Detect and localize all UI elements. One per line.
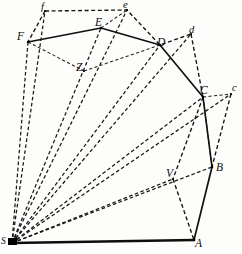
ray-S-F bbox=[12, 42, 28, 243]
ray-S-e bbox=[12, 10, 127, 243]
edge-c-B bbox=[212, 94, 231, 167]
label-e: e bbox=[123, 0, 128, 11]
dashed-edge-group bbox=[28, 10, 231, 240]
station-ray-group bbox=[12, 10, 231, 243]
baseline-S-A bbox=[12, 240, 194, 243]
edge-C-V bbox=[173, 97, 203, 179]
vertex-Z bbox=[83, 70, 85, 72]
label-E: E bbox=[95, 17, 102, 29]
vertex-f bbox=[44, 10, 46, 12]
label-D: D bbox=[157, 37, 165, 49]
label-B: B bbox=[216, 162, 223, 174]
label-C: C bbox=[200, 85, 208, 97]
label-S: S bbox=[1, 237, 6, 247]
figure-canvas bbox=[0, 0, 242, 254]
solid-edge-group bbox=[12, 28, 212, 243]
vertex-group bbox=[8, 9, 232, 245]
label-f: f bbox=[41, 2, 44, 13]
ray-S-C bbox=[12, 97, 203, 243]
label-c: c bbox=[232, 83, 237, 94]
label-V: V bbox=[166, 168, 173, 180]
primary-traverse bbox=[28, 28, 212, 240]
ray-S-E bbox=[12, 28, 101, 243]
label-Z: Z bbox=[76, 62, 82, 74]
edge-V-A bbox=[173, 179, 194, 240]
label-d: d bbox=[189, 25, 194, 36]
station-point-S bbox=[8, 238, 17, 245]
label-F: F bbox=[17, 31, 24, 43]
edge-E-e bbox=[101, 10, 127, 28]
geometric-figure: f e E F d D Z c C B V A S bbox=[0, 0, 242, 254]
label-A: A bbox=[195, 238, 202, 250]
vertex-B bbox=[211, 166, 214, 169]
vertex-F bbox=[27, 41, 29, 43]
edge-Z-D bbox=[84, 45, 160, 71]
